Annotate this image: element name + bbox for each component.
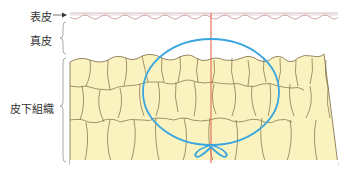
subcutaneous-fat-layer <box>70 54 338 175</box>
epidermis-layer <box>70 13 338 19</box>
subcutaneous-bracket-icon <box>60 58 66 162</box>
skin-diagram <box>0 0 353 175</box>
epidermis-arrow-icon <box>53 13 67 18</box>
dermis-bracket-icon <box>60 22 66 54</box>
